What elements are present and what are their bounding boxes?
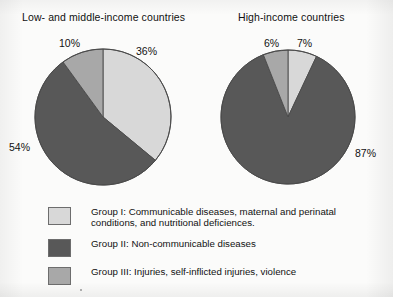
right-pie-svg: [0, 0, 393, 200]
legend-item-group2: Group II: Non-communicable diseases: [48, 238, 378, 257]
scan-artifact-dot: [80, 289, 82, 291]
pie-chart-figure: Low- and middle-income countries High-in…: [0, 0, 393, 297]
left-label-group2: 54%: [9, 141, 30, 153]
legend-item-group3: Group III: Injuries, self-inflicted inju…: [48, 266, 378, 285]
legend-item-group1: Group I: Communicable diseases, maternal…: [48, 206, 378, 229]
left-label-group3: 10%: [59, 37, 80, 49]
right-label-group3: 6%: [264, 37, 279, 49]
legend-label-group2: Group II: Non-communicable diseases: [91, 238, 256, 249]
legend: Group I: Communicable diseases, maternal…: [48, 206, 378, 294]
legend-label-group3: Group III: Injuries, self-inflicted inju…: [91, 266, 296, 277]
legend-swatch-group3: [48, 267, 71, 285]
right-label-group1: 7%: [297, 37, 312, 49]
right-label-group2: 87%: [355, 147, 376, 159]
legend-label-group1: Group I: Communicable diseases, maternal…: [91, 206, 378, 229]
left-label-group1: 36%: [136, 45, 157, 57]
right-pie-chart: [0, 0, 393, 200]
legend-swatch-group2: [48, 239, 71, 257]
legend-swatch-group1: [48, 207, 71, 225]
